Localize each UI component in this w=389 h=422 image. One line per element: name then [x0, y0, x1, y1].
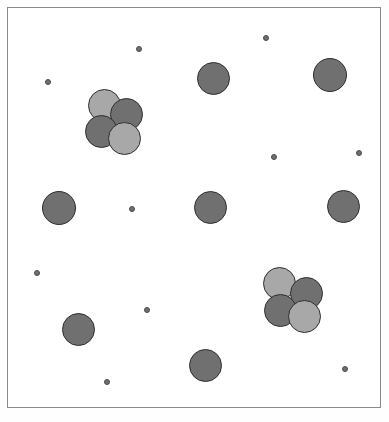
large-particle-1	[197, 62, 230, 95]
large-particle-4	[194, 191, 227, 224]
small-particle-10	[342, 366, 348, 372]
small-particle-5	[356, 150, 362, 156]
small-particle-8	[144, 307, 150, 313]
large-particle-5	[327, 190, 360, 223]
large-particle-3	[42, 191, 76, 225]
small-particle-2	[136, 46, 142, 52]
particle-scene-stage	[0, 0, 389, 422]
small-particle-4	[271, 154, 277, 160]
large-particle-2	[313, 58, 347, 92]
small-particle-3	[45, 79, 51, 85]
small-particle-6	[129, 206, 135, 212]
particle-layer	[0, 0, 389, 422]
cluster-2-particle-d	[288, 300, 321, 333]
large-particle-6	[62, 313, 95, 346]
large-particle-7	[189, 349, 222, 382]
small-particle-9	[104, 379, 110, 385]
small-particle-7	[34, 270, 40, 276]
small-particle-1	[263, 35, 269, 41]
cluster-1-particle-d	[108, 122, 141, 155]
